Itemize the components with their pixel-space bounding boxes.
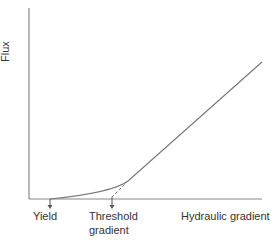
threshold-label-line1: Threshold: [89, 210, 138, 223]
threshold-label-line2: gradient: [89, 224, 129, 237]
yield-arrow-icon: [48, 199, 53, 209]
x-axis-label: Hydraulic gradient: [181, 210, 270, 223]
yield-label: Yield: [33, 210, 57, 223]
flux-curve: [50, 62, 262, 199]
extrapolation-line: [112, 181, 128, 197]
y-axis-label: Flux: [0, 41, 11, 62]
